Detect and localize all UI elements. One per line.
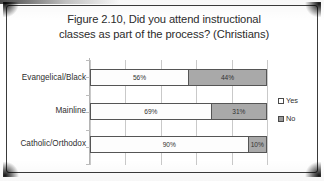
bar-label-yes-catholic-orthodox: 90% [163, 141, 176, 148]
scanned-chart-page: Figure 2.10, Did you attend instructiona… [0, 0, 324, 181]
y-axis-tick-4 [86, 130, 90, 131]
y-axis-tick-2 [86, 95, 90, 96]
category-label-catholic-orthodox: Catholic/Orthodox [0, 139, 86, 148]
bar-row-evangelical-black[interactable]: 56% 44% [90, 69, 267, 86]
category-label-evangelical-black: Evangelical/Black [0, 73, 86, 82]
chart-title: Figure 2.10, Did you attend instructiona… [18, 12, 310, 42]
bar-segment-yes-catholic-orthodox[interactable]: 90% [91, 137, 249, 152]
legend-swatch-yes-icon [278, 98, 284, 104]
y-axis-tick-0 [86, 60, 90, 61]
chart-legend: Yes No [278, 96, 298, 132]
bar-segment-yes-evangelical-black[interactable]: 56% [91, 70, 189, 85]
category-label-mainline: Mainline [0, 106, 86, 115]
bar-label-no-catholic-orthodox: 10% [251, 141, 264, 148]
legend-label-yes: Yes [286, 96, 298, 105]
scan-smudge [0, 0, 120, 4]
legend-item-yes[interactable]: Yes [278, 96, 298, 105]
legend-item-no[interactable]: No [278, 114, 298, 123]
bar-row-catholic-orthodox[interactable]: 90% 10% [90, 136, 267, 153]
legend-label-no: No [286, 114, 295, 123]
bar-label-yes-mainline: 69% [144, 108, 157, 115]
bar-label-no-mainline: 31% [232, 108, 245, 115]
bar-segment-no-catholic-orthodox[interactable]: 10% [249, 137, 267, 152]
chart-title-line-2: classes as part of the process? (Christi… [18, 27, 310, 42]
plot-area: 56% 44% 69% 31% 90% 10% [90, 60, 267, 165]
bar-label-yes-evangelical-black: 56% [133, 74, 146, 81]
bar-row-mainline[interactable]: 69% 31% [90, 103, 267, 120]
chart-title-line-1: Figure 2.10, Did you attend instructiona… [18, 12, 310, 27]
bar-segment-yes-mainline[interactable]: 69% [91, 104, 212, 119]
y-axis-tick-6 [86, 164, 90, 165]
bar-label-no-evangelical-black: 44% [221, 74, 234, 81]
bar-segment-no-mainline[interactable]: 31% [212, 104, 266, 119]
legend-swatch-no-icon [278, 116, 284, 122]
bar-segment-no-evangelical-black[interactable]: 44% [189, 70, 266, 85]
